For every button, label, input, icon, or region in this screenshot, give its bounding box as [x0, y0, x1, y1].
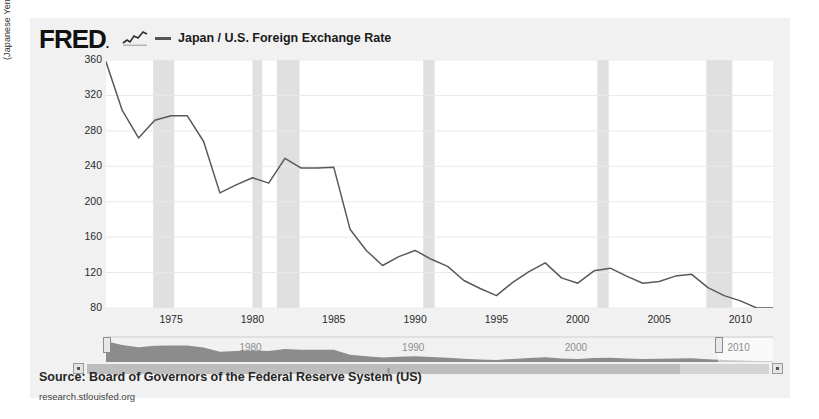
fred-logo-text: FRED: [39, 24, 106, 54]
fred-chart-screenshot: FRED. Japan / U.S. Foreign Exchange Rate…: [0, 0, 819, 419]
chart-legend: Japan / U.S. Foreign Exchange Rate: [155, 31, 391, 45]
y-axis-title: (Japanese Yen to One U.S. Dollar): [2, 0, 12, 60]
source-attribution: Source: Board of Governors of the Federa…: [39, 370, 422, 384]
y-tick-80: 80: [74, 301, 102, 313]
navigator-year-1990: 1990: [402, 342, 424, 353]
exchange-rate-line-plot: [106, 60, 773, 308]
line-chart-squiggle-icon: [122, 30, 148, 46]
y-tick-120: 120: [74, 266, 102, 278]
x-tick-1985: 1985: [314, 313, 354, 325]
chart-header: FRED. Japan / U.S. Foreign Exchange Rate: [30, 18, 790, 58]
fred-logo-dot: .: [106, 37, 108, 51]
fred-chart-card: FRED. Japan / U.S. Foreign Exchange Rate…: [30, 18, 790, 398]
navigator-year-2010: 2010: [727, 342, 749, 353]
horizontal-gridlines: [106, 60, 773, 308]
range-navigator[interactable]: 1980199020002010: [106, 336, 773, 362]
x-axis-tick-labels: 19751980198519901995200020052010: [106, 313, 773, 329]
y-tick-200: 200: [74, 195, 102, 207]
y-tick-240: 240: [74, 159, 102, 171]
fred-logo[interactable]: FRED.: [39, 26, 108, 52]
y-tick-280: 280: [74, 124, 102, 136]
series-line-japan-usd: [106, 62, 773, 308]
x-tick-1975: 1975: [151, 313, 191, 325]
legend-label-series-1: Japan / U.S. Foreign Exchange Rate: [178, 31, 391, 45]
x-tick-1990: 1990: [395, 313, 435, 325]
y-tick-160: 160: [74, 230, 102, 242]
scroll-right-arrow-button[interactable]: [772, 363, 783, 374]
website-attribution[interactable]: research.stlouisfed.org: [39, 391, 135, 402]
range-handle-right[interactable]: [715, 337, 723, 353]
chart-plot-area[interactable]: [106, 60, 773, 308]
range-handle-left[interactable]: [103, 337, 111, 353]
navigator-year-1980: 1980: [239, 342, 261, 353]
x-tick-1980: 1980: [232, 313, 272, 325]
x-tick-2000: 2000: [558, 313, 598, 325]
x-tick-2010: 2010: [720, 313, 760, 325]
navigator-area-chart: [106, 336, 773, 362]
x-tick-2005: 2005: [639, 313, 679, 325]
y-tick-360: 360: [74, 53, 102, 65]
y-tick-320: 320: [74, 88, 102, 100]
navigator-year-2000: 2000: [565, 342, 587, 353]
legend-swatch-series-1: [155, 37, 171, 40]
y-axis-tick-labels: 36032028024020016012080: [70, 60, 102, 308]
x-tick-1995: 1995: [476, 313, 516, 325]
